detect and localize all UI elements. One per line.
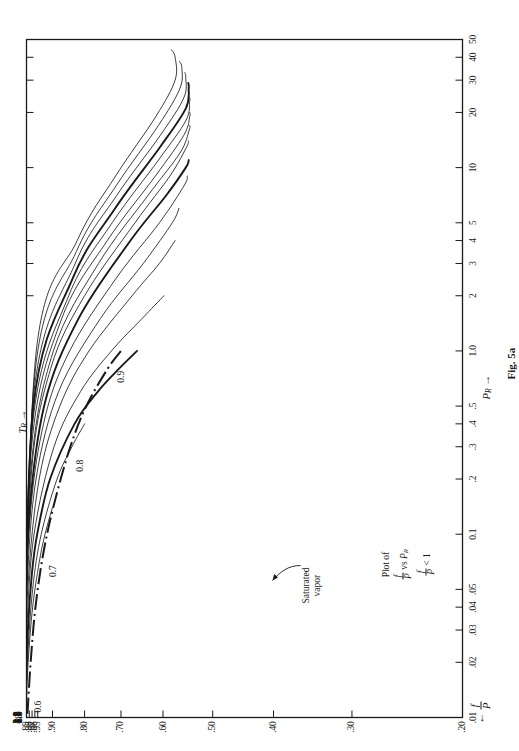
y-tick-label-7: .70	[116, 721, 126, 732]
fugacity-chart	[0, 0, 519, 751]
y-tick-label-6: .80	[79, 721, 89, 732]
figure-caption: Fig. 5a	[505, 347, 516, 379]
saturated-vapor-point-label-1: 0.7	[49, 565, 59, 577]
x-tick-label-11: 2	[468, 293, 478, 298]
y-tick-label-12: .20	[457, 721, 467, 732]
x-tick-label-9: .5	[468, 402, 478, 409]
isotherm-label-2.3: 2.3	[13, 711, 23, 723]
y-axis-frac-den: P	[481, 701, 492, 709]
saturated-vapor-line2: vapor	[311, 567, 322, 603]
x-tick-label-18: 40	[468, 52, 478, 61]
y-tick-label-9: .50	[207, 721, 217, 732]
x-tick-label-10: 1.0	[468, 345, 478, 356]
note-pr: P	[398, 553, 408, 559]
y-axis-frac: f P	[469, 701, 491, 709]
saturated-vapor-point-label-2: 0.8	[75, 459, 85, 471]
x-tick-label-14: 5	[468, 220, 478, 225]
saturated-vapor-label: Saturated vapor	[300, 567, 322, 603]
note-lt: < 1	[421, 553, 431, 565]
saturated-vapor-point-label-3: 0.9	[116, 370, 126, 382]
x-axis-title: PR →	[480, 374, 492, 399]
tr-title-sub: R	[20, 423, 29, 428]
x-tick-label-17: 30	[468, 75, 478, 84]
x-axis-title-sub: R	[484, 388, 493, 393]
note-frac-fp-2: fP	[416, 568, 436, 576]
x-tick-label-12: 3	[468, 261, 478, 266]
y-axis-arrow: ←	[473, 712, 485, 723]
y-tick-label-4: .95	[32, 721, 42, 732]
x-tick-label-1: .02	[468, 656, 478, 667]
x-tick-label-6: .2	[468, 475, 478, 482]
x-tick-label-3: .04	[468, 601, 478, 612]
note-vs: vs	[398, 561, 408, 569]
saturated-vapor-point-label-0: 0.6	[33, 700, 43, 712]
curve-family-title: TR →	[16, 409, 28, 433]
x-tick-label-19: 50	[468, 34, 478, 43]
tr-title-arrow: →	[15, 409, 27, 420]
x-axis-arrow: →	[479, 374, 491, 385]
note-line-2: fP vs PR	[394, 509, 414, 619]
x-axis-title-text: P	[480, 393, 491, 399]
x-tick-label-4: .05	[468, 583, 478, 594]
tr-title-text: T	[16, 427, 27, 433]
x-tick-label-16: 20	[468, 107, 478, 116]
figure-page: .01.02.03.04.050.1.2.3.4.51.023451020304…	[0, 0, 519, 751]
y-axis-title: ← f P	[470, 701, 492, 723]
figure-stage: .01.02.03.04.050.1.2.3.4.51.023451020304…	[0, 0, 519, 751]
y-axis-frac-num: f	[469, 701, 481, 709]
note-block: Plot of fP vs PR fP < 1	[380, 509, 437, 619]
y-tick-label-5: .90	[47, 721, 57, 732]
note-line-1: Plot of	[380, 509, 392, 619]
x-tick-label-5: 0.1	[468, 528, 478, 539]
note-line-3: fP < 1	[417, 509, 437, 619]
saturated-vapor-line1: Saturated	[300, 567, 311, 603]
x-tick-label-2: .03	[468, 624, 478, 635]
note-frac-fp: fP	[393, 572, 413, 580]
y-tick-label-8: .60	[158, 721, 168, 732]
x-tick-label-7: .3	[468, 443, 478, 450]
x-tick-label-13: 4	[468, 238, 478, 243]
x-tick-label-8: .4	[468, 420, 478, 427]
y-tick-label-11: .30	[347, 721, 357, 732]
x-tick-label-15: 10	[468, 163, 478, 172]
y-tick-label-10: .40	[268, 721, 278, 732]
